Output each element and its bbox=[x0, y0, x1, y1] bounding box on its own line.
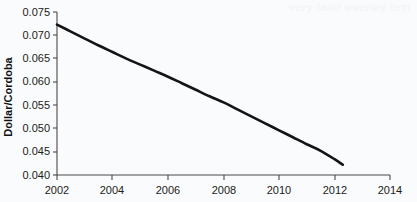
y-tick-label: 0.045 bbox=[22, 145, 50, 157]
y-tick-label: 0.075 bbox=[22, 6, 50, 18]
x-axis-tick-labels: 2002 2004 2006 2008 2010 2012 2014 bbox=[45, 184, 402, 196]
x-tick-label: 2004 bbox=[100, 184, 124, 196]
y-tick-label: 0.050 bbox=[22, 122, 50, 134]
y-axis-title: Dollar/Cordoba bbox=[2, 56, 14, 136]
y-tick-label: 0.065 bbox=[22, 52, 50, 64]
x-tick-label: 2002 bbox=[45, 184, 69, 196]
x-tick-label: 2014 bbox=[378, 184, 402, 196]
x-tick-label: 2006 bbox=[156, 184, 180, 196]
chart-figure: very faint overlay text 0.075 0.070 0.06… bbox=[0, 0, 417, 202]
x-tick-label: 2012 bbox=[323, 184, 347, 196]
axis-spines bbox=[57, 12, 390, 175]
x-axis-tick-marks bbox=[57, 175, 390, 180]
y-tick-label: 0.055 bbox=[22, 99, 50, 111]
y-tick-label: 0.040 bbox=[22, 169, 50, 181]
y-axis-tick-marks bbox=[53, 12, 57, 175]
x-tick-label: 2010 bbox=[267, 184, 291, 196]
data-series-line bbox=[57, 25, 343, 165]
y-tick-label: 0.060 bbox=[22, 75, 50, 87]
line-chart: 0.075 0.070 0.065 0.060 0.055 0.050 0.04… bbox=[0, 0, 417, 202]
y-axis-tick-labels: 0.075 0.070 0.065 0.060 0.055 0.050 0.04… bbox=[22, 6, 50, 181]
x-tick-label: 2008 bbox=[212, 184, 236, 196]
y-tick-label: 0.070 bbox=[22, 29, 50, 41]
